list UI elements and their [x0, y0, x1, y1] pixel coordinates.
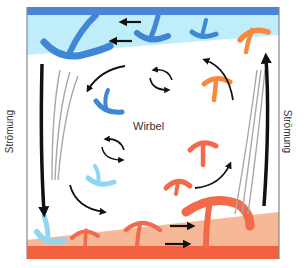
downflow-arrow-left: [41, 64, 44, 212]
warm-plume-mid: [204, 78, 230, 100]
flow-label-right: Strömung: [282, 110, 293, 153]
arrow-down-left: [88, 66, 125, 90]
cool-plume-detached: [88, 166, 114, 184]
vortex-label: Wirbel: [133, 120, 164, 132]
warm-bottom-layer: [27, 212, 279, 259]
streamlines-left: [52, 70, 78, 180]
vortex-lower: [102, 139, 124, 160]
top-band: [27, 7, 279, 15]
cold-plume-detached: [96, 90, 122, 112]
bottom-band: [27, 246, 279, 259]
arrow-down-right: [70, 185, 104, 212]
convection-diagram: [0, 0, 304, 268]
streamlines-right: [235, 70, 265, 214]
hot-plume-detached-2: [190, 143, 216, 165]
hot-plume-detached-1: [166, 181, 190, 194]
vortex-upper: [150, 70, 172, 90]
flow-label-left: Strömung: [4, 110, 15, 153]
arrow-up-right: [195, 164, 230, 188]
